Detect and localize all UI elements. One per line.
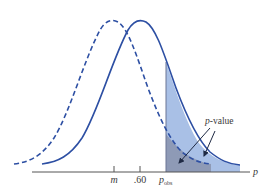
- axis-variable-label: p: [252, 166, 258, 177]
- solid-distribution-curve: [42, 21, 240, 165]
- p-obs-subscript: obs: [164, 180, 173, 186]
- tick-label-p-obs: pobs: [158, 174, 173, 186]
- p-value-label-rest: -value: [210, 116, 234, 126]
- tick-label-m: m: [110, 174, 117, 185]
- p-value-label: p-value: [204, 116, 234, 126]
- p-value-diagram: m .60 pobs p p-value: [0, 0, 271, 189]
- tick-label-060: .60: [134, 174, 147, 185]
